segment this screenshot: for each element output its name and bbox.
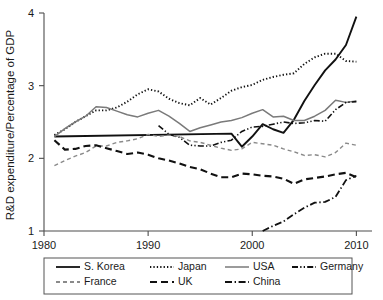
legend-label: Germany — [320, 260, 364, 272]
y-tick-label: 4 — [28, 7, 34, 19]
legend-label: USA — [253, 260, 275, 272]
y-tick-label: 3 — [28, 80, 34, 92]
x-tick-label: 2000 — [240, 239, 264, 251]
legend-label: UK — [178, 275, 193, 287]
legend-label: China — [253, 275, 281, 287]
rd-expenditure-line-chart: R&D expenditure/Percentage of GDP 1234 1… — [0, 0, 383, 300]
chart-background — [0, 0, 383, 300]
y-tick-label: 1 — [28, 225, 34, 237]
legend-label: France — [84, 275, 117, 287]
x-tick-label: 2010 — [344, 239, 368, 251]
legend-label: Japan — [178, 260, 207, 272]
x-tick-label: 1980 — [32, 239, 56, 251]
y-tick-label: 2 — [28, 152, 34, 164]
y-axis-label: R&D expenditure/Percentage of GDP — [4, 29, 16, 220]
legend-label: S. Korea — [84, 260, 125, 272]
x-tick-label: 1990 — [136, 239, 160, 251]
